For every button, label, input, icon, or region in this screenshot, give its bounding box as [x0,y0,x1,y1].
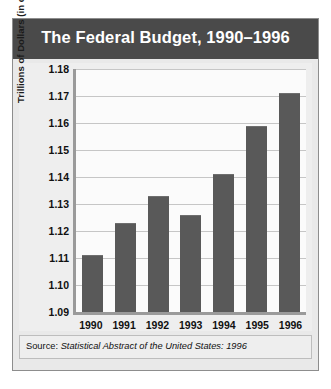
plot-area [73,69,306,315]
title-band: The Federal Budget, 1990–1996 [13,19,318,59]
bar-1990 [82,255,103,312]
bar-1993 [180,215,201,312]
bar-1991 [115,223,136,312]
y-axis-tick: 1.15 [49,144,69,156]
x-axis-tick-1993: 1993 [179,319,200,331]
y-axis-tick: 1.14 [49,171,69,183]
y-axis-tick: 1.13 [49,198,69,210]
y-axis-tick: 1.11 [49,252,69,264]
x-axis-tick-1996: 1996 [279,319,300,331]
y-axis-tick: 1.16 [49,117,69,129]
x-axis-tick-1990: 1990 [79,319,100,331]
chart-figure: The Federal Budget, 1990–1996 Trillions … [12,18,319,371]
bar-series [76,69,306,312]
y-axis-tick: 1.09 [49,306,69,318]
x-axis-tick-1992: 1992 [146,319,167,331]
y-axis-tick: 1.17 [49,90,69,102]
bar-1994 [213,174,234,312]
bar-1996 [279,93,300,312]
y-axis-tick: 1.10 [49,279,69,291]
chart-title: The Federal Budget, 1990–1996 [13,28,318,47]
y-axis-tick: 1.18 [49,63,69,75]
y-axis-label-text: Trillions of Dollars (in constant 1987 d… [15,0,26,103]
x-axis-tick-1994: 1994 [212,319,233,331]
source-reference: Statistical Abstract of the United State… [61,341,247,351]
source-label: Source: [26,341,58,351]
y-axis-label: Trillions of Dollars (in constant 1987 d… [15,0,26,103]
x-axis-tick-1991: 1991 [112,319,133,331]
bar-1995 [246,126,267,312]
y-axis-tick-labels: 1.181.171.161.151.141.131.121.111.101.09 [35,63,69,331]
source-band: Source: Statistical Abstract of the Unit… [19,335,312,359]
chart-panel: Trillions of Dollars (in constant 1987 d… [19,63,312,331]
y-axis-tick: 1.12 [49,225,69,237]
x-axis-tick-labels: 1990199119921993199419951996 [73,319,306,335]
x-axis-tick-1995: 1995 [246,319,267,331]
source-note: Source: Statistical Abstract of the Unit… [26,341,247,351]
bar-1992 [148,196,169,312]
plot-inner [76,69,306,312]
